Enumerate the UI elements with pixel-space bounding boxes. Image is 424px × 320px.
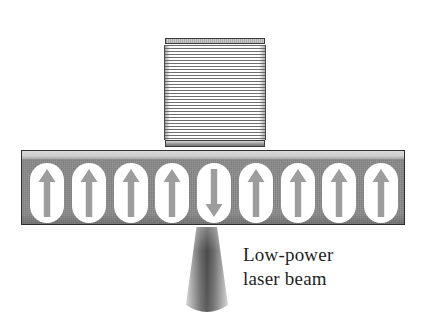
magnetic-domain-6 xyxy=(239,163,273,223)
head-left-shading xyxy=(165,45,170,140)
laser-beam-icon xyxy=(180,227,234,315)
beam-fade xyxy=(186,227,228,312)
magnetic-domain-2 xyxy=(72,163,106,223)
arrow-up-icon xyxy=(80,169,98,217)
arrow-down-icon xyxy=(205,169,223,217)
arrow-shape xyxy=(39,169,56,217)
head-bottom-cap xyxy=(165,140,265,147)
arrow-up-icon xyxy=(372,169,390,217)
arrow-up-icon xyxy=(289,169,307,217)
head-right-shading xyxy=(259,45,265,140)
magnetic-domain-8 xyxy=(322,163,356,223)
arrow-up-icon xyxy=(38,169,56,217)
caption-line-1: Low-power xyxy=(243,243,418,267)
caption-line-2: laser beam xyxy=(243,267,418,291)
arrow-up-icon xyxy=(122,169,140,217)
arrow-shape xyxy=(164,169,181,217)
arrow-shape xyxy=(80,169,97,217)
magnetic-domain-9 xyxy=(364,163,398,223)
arrow-shape xyxy=(373,169,390,217)
magnetic-domain-3 xyxy=(114,163,148,223)
figure-canvas: Low-power laser beam xyxy=(0,0,424,320)
magnetic-domain-1 xyxy=(30,163,64,223)
arrow-up-icon xyxy=(330,169,348,217)
magnetic-domain-5 xyxy=(197,163,231,223)
magnetic-medium-strip xyxy=(21,150,405,225)
arrow-up-icon xyxy=(247,169,265,217)
head-striped-body xyxy=(164,45,266,140)
arrow-shape xyxy=(122,169,139,217)
magnetic-domain-4 xyxy=(155,163,189,223)
arrow-up-icon xyxy=(163,169,181,217)
recording-head-block xyxy=(164,38,266,148)
arrow-shape xyxy=(331,169,348,217)
arrow-shape xyxy=(247,169,264,217)
laser-beam-cone xyxy=(180,227,234,315)
arrow-shape xyxy=(206,169,223,217)
arrow-shape xyxy=(289,169,306,217)
magnetic-domain-7 xyxy=(281,163,315,223)
medium-top-highlight xyxy=(22,151,404,159)
laser-caption: Low-power laser beam xyxy=(243,243,418,291)
head-top-cap xyxy=(165,38,265,44)
magnetic-domains-row xyxy=(22,159,404,224)
